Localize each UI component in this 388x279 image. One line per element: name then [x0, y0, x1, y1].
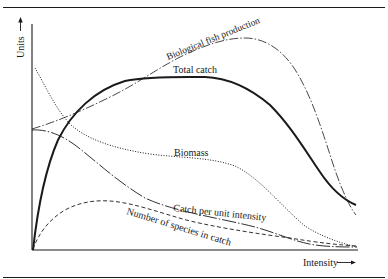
y-axis-label-group: Units [15, 18, 26, 58]
y-axis-label: Units [15, 36, 26, 58]
label-biological-fish-production: Biological fish production [165, 15, 261, 62]
label-total-catch: Total catch [173, 64, 217, 75]
fishery-curves-chart: Units Intensity Biological fish producti… [0, 0, 388, 279]
x-axis-label: Intensity [303, 257, 338, 268]
curve-total-catch [33, 77, 356, 250]
label-biomass: Biomass [174, 147, 209, 158]
label-catch-per-unit-intensity: Catch per unit intensity [173, 202, 267, 223]
